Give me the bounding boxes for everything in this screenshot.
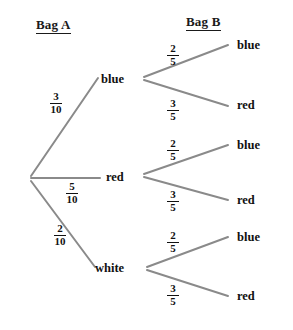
fraction-numerator: 2	[50, 223, 70, 234]
fraction-denominator: 5	[163, 151, 183, 162]
node-label-bag-a-blue: blue	[101, 73, 124, 86]
fraction-white-blue: 2 5	[163, 230, 183, 254]
fraction-bag-a-white: 2 10	[50, 223, 70, 247]
leaf-label-blue-blue: blue	[237, 39, 260, 52]
fraction-numerator: 3	[163, 283, 183, 294]
fraction-denominator: 10	[46, 104, 66, 115]
fraction-red-red: 3 5	[163, 189, 183, 213]
fraction-denominator: 5	[163, 243, 183, 254]
leaf-label-white-red: red	[237, 290, 255, 303]
branch-white-to-blue	[147, 237, 228, 267]
fraction-denominator: 5	[163, 111, 183, 122]
branch-red-to-red	[144, 177, 228, 200]
fraction-numerator: 2	[163, 43, 183, 54]
fraction-numerator: 3	[163, 189, 183, 200]
fraction-denominator: 5	[163, 202, 183, 213]
leaf-label-blue-red: red	[237, 99, 255, 112]
header-bag-a: Bag A	[36, 18, 71, 34]
fraction-blue-blue: 2 5	[163, 43, 183, 67]
branch-white-to-red	[147, 270, 228, 296]
fraction-denominator: 10	[62, 194, 82, 205]
fraction-blue-red: 3 5	[163, 98, 183, 122]
node-label-bag-a-red: red	[106, 171, 124, 184]
fraction-numerator: 3	[163, 98, 183, 109]
leaf-label-white-blue: blue	[237, 231, 260, 244]
fraction-bag-a-blue: 3 10	[46, 91, 66, 115]
fraction-bag-a-red: 5 10	[62, 181, 82, 205]
branch-blue-to-blue	[144, 45, 228, 77]
branch-red-to-blue	[144, 145, 228, 174]
fraction-numerator: 5	[62, 181, 82, 192]
fraction-denominator: 10	[50, 236, 70, 247]
fraction-numerator: 2	[163, 138, 183, 149]
leaf-label-red-red: red	[237, 194, 255, 207]
leaf-label-red-blue: blue	[237, 139, 260, 152]
header-bag-b: Bag B	[186, 15, 221, 31]
fraction-denominator: 5	[163, 56, 183, 67]
branch-blue-to-red	[144, 80, 228, 106]
fraction-numerator: 2	[163, 230, 183, 241]
fraction-denominator: 5	[163, 296, 183, 307]
fraction-numerator: 3	[46, 91, 66, 102]
fraction-white-red: 3 5	[163, 283, 183, 307]
node-label-bag-a-white: white	[95, 262, 124, 275]
fraction-red-blue: 2 5	[163, 138, 183, 162]
